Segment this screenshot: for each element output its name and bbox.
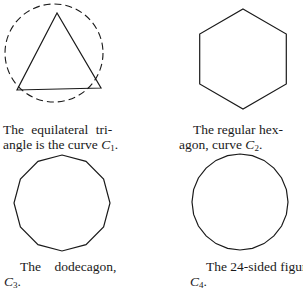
regular-dodecagon [14, 155, 110, 251]
caption-c3: The dodecagon, C3. [4, 259, 124, 288]
caption-c1-line2: angle is the curve C1. [3, 137, 121, 156]
caption-c2-line1: The regular hex- [179, 122, 301, 137]
caption-c4-line2: C4. [190, 274, 303, 288]
caption-c3-line2: C3. [4, 274, 124, 288]
caption-c4-line1: The 24-sided figure, [190, 259, 303, 274]
caption-c4: The 24-sided figure, C4. [190, 259, 303, 288]
regular-24-gon [192, 154, 288, 250]
curve-label: C [190, 274, 199, 288]
caption-c1-line1: The equilateral tri- [3, 122, 121, 137]
caption-c2: The regular hex- agon, curve C2. [179, 122, 301, 156]
regular-hexagon [200, 9, 287, 109]
curve-label: C [4, 274, 13, 288]
caption-c2-line2: agon, curve C2. [179, 137, 301, 156]
caption-c3-line1: The dodecagon, [4, 259, 124, 274]
caption-c1: The equilateral tri- angle is the curve … [3, 122, 121, 156]
equilateral-triangle [17, 13, 101, 90]
curve-label: C [101, 137, 110, 152]
